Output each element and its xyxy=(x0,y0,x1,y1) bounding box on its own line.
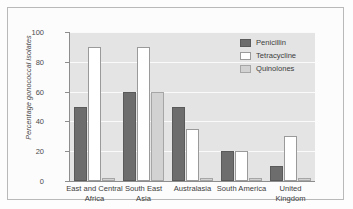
x-category-label: UnitedKingdom xyxy=(256,184,325,203)
legend-swatch-icon xyxy=(240,52,251,60)
bar xyxy=(186,129,199,181)
legend-item: Tetracycline xyxy=(240,49,296,62)
bar xyxy=(270,166,283,181)
bar xyxy=(298,178,311,181)
y-tick-label: 40 xyxy=(4,117,44,126)
chart-figure: Percentage gonococcal isolates 020406080… xyxy=(0,0,353,209)
bar xyxy=(221,151,234,181)
bar xyxy=(123,92,136,181)
y-axis-line xyxy=(69,32,70,182)
bar xyxy=(74,107,87,182)
bar xyxy=(235,151,248,181)
y-tick-mark xyxy=(65,151,69,152)
y-tick-label: 80 xyxy=(4,58,44,67)
legend-label: Quinolones xyxy=(256,64,294,73)
gridline xyxy=(70,121,315,122)
legend-item: Penicillin xyxy=(240,36,296,49)
bar xyxy=(284,136,297,181)
legend-label: Tetracycline xyxy=(256,51,296,60)
y-tick-label: 0 xyxy=(4,177,44,186)
legend-swatch-icon xyxy=(240,65,251,73)
bar xyxy=(88,47,101,181)
gridline xyxy=(70,32,315,33)
y-tick-mark xyxy=(65,121,69,122)
y-tick-mark xyxy=(65,32,69,33)
y-tick-mark xyxy=(65,181,69,182)
x-axis-line xyxy=(69,181,315,182)
y-tick-label: 20 xyxy=(4,147,44,156)
x-category-label-line: United xyxy=(256,184,325,194)
bar xyxy=(137,47,150,181)
y-tick-label: 100 xyxy=(4,28,44,37)
bar xyxy=(151,92,164,181)
bar xyxy=(172,107,185,182)
y-tick-mark xyxy=(65,92,69,93)
bar xyxy=(200,178,213,181)
x-category-label-line: Kingdom xyxy=(256,194,325,204)
gridline xyxy=(70,92,315,93)
legend-swatch-icon xyxy=(240,39,251,47)
y-tick-mark xyxy=(65,62,69,63)
legend-item: Quinolones xyxy=(240,62,296,75)
x-category-label-line: Asia xyxy=(109,194,178,204)
bar xyxy=(102,178,115,181)
chart-legend: PenicillinTetracyclineQuinolones xyxy=(240,36,296,75)
chart-frame: Percentage gonococcal isolates 020406080… xyxy=(7,7,344,200)
y-tick-label: 60 xyxy=(4,88,44,97)
bar xyxy=(249,178,262,181)
legend-label: Penicillin xyxy=(256,38,286,47)
